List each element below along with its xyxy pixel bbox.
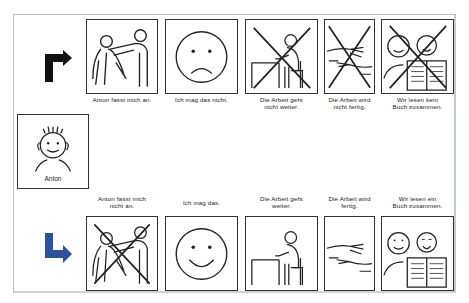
pictogram-card-touching [86, 19, 158, 94]
caption-line: nicht fertig. [314, 103, 385, 110]
caption-line: Buch zusammen. [376, 202, 459, 209]
caption-bottom-3: Die Arbeit geht weiter. [240, 195, 323, 209]
person-at-desk-icon [246, 20, 317, 93]
person-touching-person-icon [87, 20, 157, 93]
down-right-arrow-icon [42, 231, 74, 265]
caption-top-2: Ich mag das nicht. [160, 96, 243, 103]
caption-bottom-2: Ich mag das. [160, 199, 243, 206]
caption-bottom-1: Anton fasst mich nicht an. [82, 195, 162, 209]
caption-bottom-4: Die Arbeit wird fertig. [314, 195, 385, 209]
turn-right-arrow-icon [42, 50, 74, 84]
caption-top-1: Anton fasst mich an. [82, 96, 162, 103]
caption-line: Die Arbeit wird [314, 195, 385, 202]
pictogram-card-touching-crossed [86, 216, 158, 291]
pictogram-card-reading-crossed [381, 19, 454, 94]
caption-line: Anton fasst mich [82, 195, 162, 202]
caption-line: fertig. [314, 202, 385, 209]
caption-line: Wir lesen ein [376, 195, 459, 202]
person-at-desk-icon [246, 217, 317, 290]
caption-line: Die Arbeit geht [240, 96, 323, 103]
caption-line: Ich mag das. [183, 199, 220, 206]
caption-line: Anton fasst mich an. [92, 96, 151, 103]
two-people-reading-icon [382, 20, 453, 93]
caption-top-5: Wir lesen kein Buch zusammen. [376, 96, 459, 110]
caption-line: nicht an. [82, 202, 162, 209]
caption-line: nicht weiter. [240, 103, 323, 110]
subject-card-anton: Anton [17, 114, 89, 189]
caption-bottom-5: Wir lesen ein Buch zusammen. [376, 195, 459, 209]
pictogram-card-desk [245, 216, 318, 291]
pictogram-card-hands-crossed [324, 19, 375, 94]
sad-face-icon [166, 20, 237, 93]
hands-finish-icon [325, 217, 374, 290]
caption-line: weiter. [240, 202, 323, 209]
subject-name: Anton [18, 175, 88, 182]
pictogram-card-happy [165, 216, 238, 291]
caption-line: Die Arbeit geht [240, 195, 323, 202]
caption-line: Die Arbeit wird [314, 96, 385, 103]
happy-face-icon [166, 217, 237, 290]
hands-finish-icon [325, 20, 374, 93]
two-people-reading-icon [382, 217, 453, 290]
pictogram-card-reading [381, 216, 454, 291]
caption-line: Ich mag das nicht. [175, 96, 228, 103]
caption-top-3: Die Arbeit geht nicht weiter. [240, 96, 323, 110]
pictogram-card-desk-crossed [245, 19, 318, 94]
caption-line: Wir lesen kein [376, 96, 459, 103]
person-touching-person-icon [87, 217, 157, 290]
pictogram-card-sad [165, 19, 238, 94]
caption-top-4: Die Arbeit wird nicht fertig. [314, 96, 385, 110]
caption-line: Buch zusammen. [376, 103, 459, 110]
pictogram-card-hands [324, 216, 375, 291]
